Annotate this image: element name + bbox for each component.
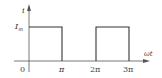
- im-label: Im: [14, 22, 23, 32]
- pulse-2: [96, 27, 129, 61]
- tick-2pi: 2π: [90, 65, 100, 74]
- tick-3pi: 3π: [123, 65, 133, 74]
- origin-label: 0: [20, 65, 25, 74]
- pulse-1: [29, 27, 62, 61]
- x-axis-arrow-icon: [143, 59, 150, 63]
- x-axis-label: ωt: [144, 50, 153, 58]
- y-axis-arrow-icon: [27, 4, 31, 11]
- y-axis-label: i: [22, 6, 25, 15]
- waveform-chart: i Im ωt 0 π 2π 3π: [0, 0, 162, 78]
- tick-pi: π: [58, 65, 65, 74]
